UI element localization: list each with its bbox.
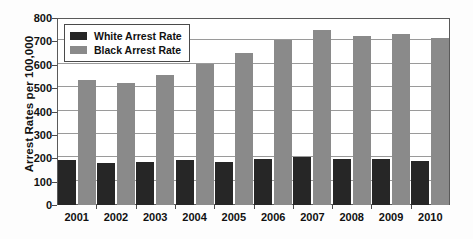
bar-chart: Arrest Rates per 100,000 800700600500400… (0, 0, 473, 239)
bar-black-arrest-rate (392, 34, 410, 205)
x-tick-label: 2010 (407, 211, 453, 223)
y-tick-label: 800 (12, 12, 52, 24)
legend-swatch-icon (70, 46, 87, 54)
y-tick-label: 100 (12, 176, 52, 188)
bar-black-arrest-rate (274, 40, 292, 205)
bar-white-arrest-rate (97, 163, 115, 205)
bar-group (411, 18, 450, 205)
legend-item-white-arrest-rate: White Arrest Rate (70, 29, 182, 43)
bar-black-arrest-rate (196, 64, 214, 205)
bar-group (293, 18, 332, 205)
bar-black-arrest-rate (235, 53, 253, 205)
legend-swatch-icon (70, 32, 87, 40)
y-tick-label: 200 (12, 152, 52, 164)
x-tick-mark (175, 205, 176, 209)
y-tick-label: 500 (12, 82, 52, 94)
y-tick-label: 700 (12, 35, 52, 47)
bar-black-arrest-rate (117, 83, 135, 205)
bar-group (214, 18, 253, 205)
bar-black-arrest-rate (431, 38, 449, 205)
x-tick-mark (96, 205, 97, 209)
bar-group (332, 18, 371, 205)
bar-black-arrest-rate (156, 75, 174, 205)
y-tick-label: 300 (12, 129, 52, 141)
chart-legend: White Arrest Rate Black Arrest Rate (64, 24, 190, 62)
bar-white-arrest-rate (176, 160, 194, 205)
bar-group (254, 18, 293, 205)
bar-white-arrest-rate (293, 157, 311, 205)
bar-white-arrest-rate (333, 159, 351, 205)
x-tick-mark (293, 205, 294, 209)
y-tick-label: 0 (12, 199, 52, 211)
x-tick-mark (214, 205, 215, 209)
bar-white-arrest-rate (136, 162, 154, 205)
x-tick-mark (371, 205, 372, 209)
bar-white-arrest-rate (254, 159, 272, 205)
x-tick-mark (254, 205, 255, 209)
y-tick-label: 600 (12, 59, 52, 71)
bar-white-arrest-rate (215, 162, 233, 205)
legend-label: Black Arrest Rate (94, 44, 181, 56)
bar-black-arrest-rate (313, 30, 331, 205)
bar-group (371, 18, 410, 205)
bar-white-arrest-rate (411, 161, 429, 205)
legend-item-black-arrest-rate: Black Arrest Rate (70, 43, 182, 57)
bar-black-arrest-rate (78, 80, 96, 205)
y-tick-mark (52, 205, 57, 206)
legend-label: White Arrest Rate (94, 30, 182, 42)
x-tick-mark (332, 205, 333, 209)
bar-black-arrest-rate (353, 36, 371, 205)
x-tick-mark (411, 205, 412, 209)
bar-white-arrest-rate (58, 160, 76, 205)
bar-white-arrest-rate (372, 159, 390, 205)
y-tick-label: 400 (12, 106, 52, 118)
x-tick-mark (136, 205, 137, 209)
